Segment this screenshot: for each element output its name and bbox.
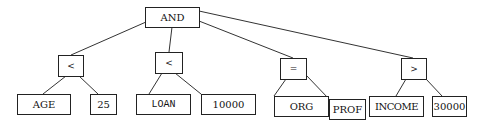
leaf-age: AGE (17, 94, 71, 115)
leaf-prof: PROF (329, 99, 366, 120)
node-greater-than: > (401, 58, 427, 80)
leaf-25: 25 (90, 94, 117, 115)
node-less-than-2: < (155, 52, 183, 74)
edge-and-lt2 (169, 27, 172, 52)
edge-and-lt1 (71, 22, 146, 55)
edge-lt2-loan (149, 73, 162, 94)
edge-lt1-25 (79, 76, 98, 94)
edge-gt-income (396, 79, 406, 96)
edge-lt1-age (43, 76, 66, 94)
node-and: AND (145, 7, 200, 28)
edge-gt-30000 (426, 79, 442, 96)
leaf-income: INCOME (369, 96, 424, 117)
leaf-30000: 30000 (432, 96, 467, 117)
node-equals: = (280, 58, 307, 80)
edge-lt2-10000 (175, 73, 201, 94)
leaf-loan: LOAN (136, 94, 191, 115)
edge-and-gt (199, 11, 413, 58)
edge-eq-org (274, 79, 286, 96)
edge-and-eq (199, 21, 293, 58)
node-less-than-1: < (58, 55, 84, 77)
leaf-10000: 10000 (201, 94, 256, 115)
leaf-org: ORG (274, 96, 329, 117)
